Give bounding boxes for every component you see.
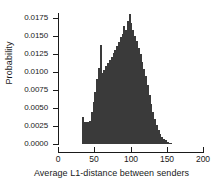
x-axis-line [58, 152, 204, 153]
x-axis-tick [167, 147, 168, 152]
x-axis-tick-label: 0 [43, 155, 73, 164]
x-axis-tick-label: 150 [152, 155, 182, 164]
x-axis-tick [203, 147, 204, 152]
y-axis-tick-label: 0.0000 [0, 140, 48, 148]
y-axis-tick-label: 0.0050 [0, 104, 48, 112]
x-axis-tick [94, 147, 95, 152]
x-axis-tick [58, 147, 59, 152]
plot-area [58, 14, 203, 144]
y-axis-tick [53, 144, 58, 145]
y-axis-title: Probability [4, 26, 14, 100]
x-axis-tick [131, 147, 132, 152]
histogram-figure: 0.00000.00250.00500.00750.01000.01250.01… [0, 0, 223, 191]
x-axis-tick-label: 50 [79, 155, 109, 164]
y-axis-tick-label: 0.0025 [0, 122, 48, 130]
histogram-bar [171, 143, 173, 144]
x-axis-tick-label: 200 [188, 155, 218, 164]
x-axis-tick-label: 100 [116, 155, 146, 164]
x-axis-title: Average L1-distance between senders [0, 168, 223, 178]
histogram-bars [58, 14, 203, 144]
y-axis-tick-label: 0.0175 [0, 14, 48, 22]
